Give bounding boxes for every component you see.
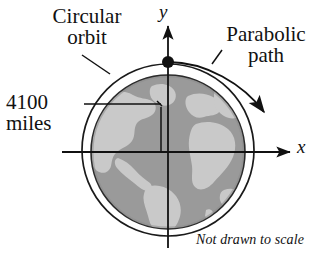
not-drawn-to-scale-note: Not drawn to scale (196, 233, 304, 247)
physics-figure-orbit-diagram: Circular orbit Parabolic path 4100 miles… (0, 0, 329, 263)
circular-orbit-leader-line (82, 55, 110, 74)
distance-label-4100-miles: 4100 miles (6, 92, 84, 135)
satellite-point (162, 56, 174, 68)
parabolic-path-label: Parabolic path (208, 24, 324, 67)
circular-orbit-label: Circular orbit (28, 6, 146, 49)
x-axis-label: x (297, 137, 305, 156)
y-axis-label: y (159, 2, 167, 21)
